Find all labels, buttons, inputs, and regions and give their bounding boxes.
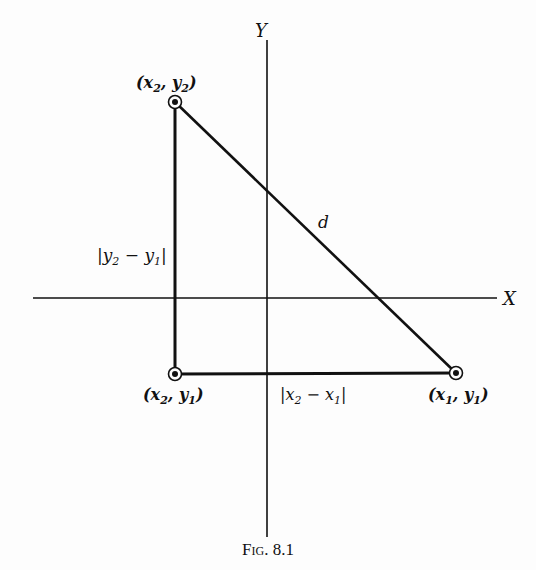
point-label-x2-y2: (x2, y2): [136, 73, 196, 95]
point-label-x2-y1: (x2, y1): [143, 385, 203, 407]
hypotenuse-label-d: d: [318, 212, 329, 232]
point-label-x1-y1: (x1, y1): [428, 385, 488, 407]
hypotenuse-d: [175, 102, 456, 373]
figure-canvas: Y X (x2, y2) (x2, y1) (x1, y1) d |y2 − y…: [0, 0, 536, 570]
diagram-svg: [0, 0, 536, 570]
horizontal-leg: [175, 373, 456, 374]
point-x2-y2-marker: [169, 96, 182, 109]
figure-caption: Fig. 8.1: [0, 540, 536, 560]
vertical-leg-label: |y2 − y1|: [97, 245, 167, 268]
x-axis-label: X: [503, 288, 516, 309]
point-x2-y1-marker: [169, 368, 182, 381]
horizontal-leg-label: |x2 − x1|: [280, 385, 346, 407]
point-x1-y1-marker: [450, 367, 463, 380]
y-axis-label: Y: [255, 20, 267, 41]
